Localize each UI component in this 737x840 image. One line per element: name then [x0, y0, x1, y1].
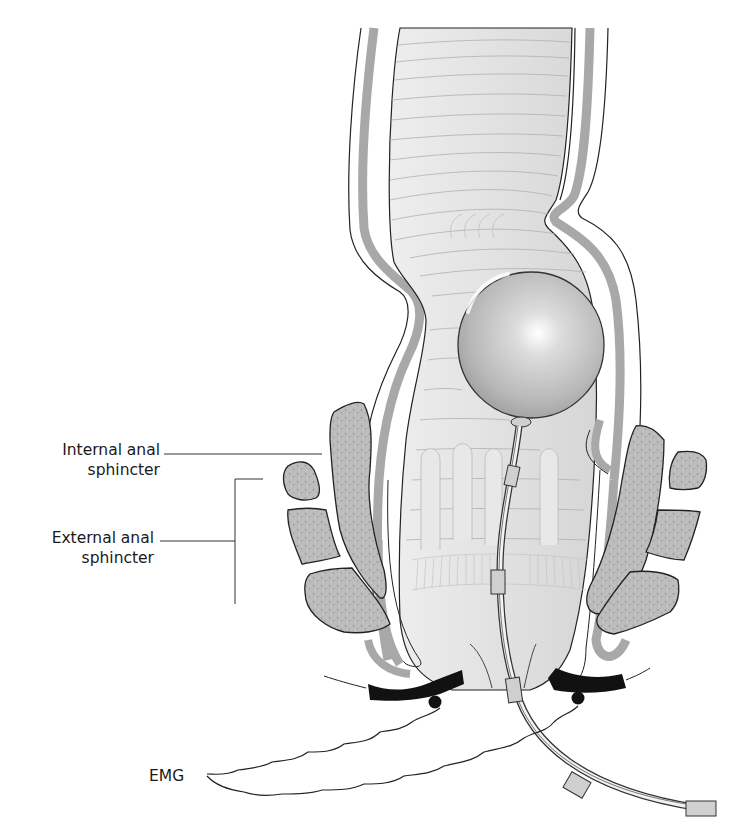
label-line: Internal anal — [0, 440, 160, 460]
emg-label: EMG — [149, 766, 184, 786]
internal-anal-sphincter-label: Internal anal sphincter — [0, 440, 160, 480]
label-line: sphincter — [0, 548, 154, 568]
emg-leads — [207, 706, 578, 795]
external-anal-sphincter-right — [587, 426, 707, 634]
anorectal-diagram — [0, 0, 737, 840]
external-anal-sphincter-label: External anal sphincter — [0, 528, 154, 568]
label-line: External anal — [0, 528, 154, 548]
label-line: sphincter — [0, 460, 160, 480]
emg-electrode-right — [548, 668, 650, 705]
